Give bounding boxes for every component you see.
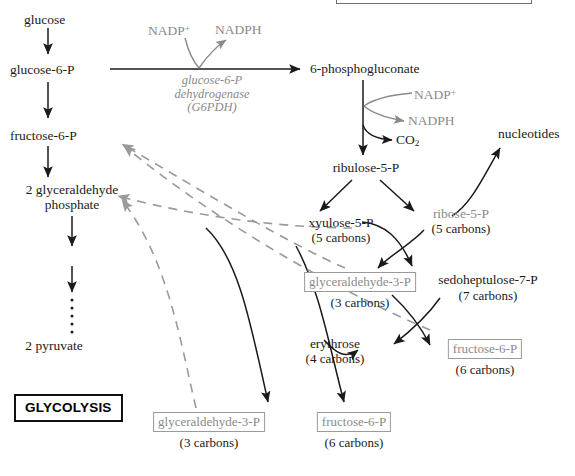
g6pdh-cofactor-curves — [185, 38, 226, 68]
node-nucleotides: nucleotides — [498, 126, 559, 141]
transaldolase-crossover-lower — [392, 295, 440, 345]
node-xyulose-5-p: xyulose-5-P — [308, 215, 373, 230]
glycolysis-badge-label: GLYCOLYSIS — [25, 400, 112, 415]
node-erythrose: erythrose — [310, 336, 360, 351]
cofactor-nadph-1: NADPH — [215, 22, 262, 37]
product-co2: CO2 — [396, 132, 419, 151]
enzyme-line3: (G6PDH) — [174, 101, 249, 115]
cofactor-nadp-charge-1: + — [185, 24, 190, 34]
node-glucose: glucose — [24, 12, 65, 27]
node-ribulose-5-p: ribulose-5-P — [333, 160, 400, 175]
node-glyceraldehyde-phosphate-line2: phosphate — [45, 197, 100, 212]
second-cofactor-curves — [364, 93, 412, 121]
node-fructose-6-p-bottom: fructose-6-P — [317, 412, 391, 432]
enzyme-line1: glucose-6-P — [174, 74, 249, 88]
carbons-sedoheptulose-7-p: (7 carbons) — [459, 289, 518, 303]
node-fructose-6-p-right: fructose-6-P — [448, 339, 522, 359]
cofactor-nadp-plus-1: NADP+ — [148, 22, 190, 38]
node-glucose-6-p: glucose-6-P — [10, 62, 75, 77]
carbons-glyceraldehyde-3-p-bottom: (3 carbons) — [180, 436, 239, 450]
enzyme-g6pdh: glucose-6-P dehydrogenase (G6PDH) — [174, 74, 249, 115]
glycolysis-dotted-continuation — [71, 299, 74, 334]
node-pyruvate: 2 pyruvate — [25, 338, 82, 353]
enzyme-line2: dehydrogenase — [174, 88, 249, 102]
co2-release-curve — [363, 125, 392, 140]
carbons-glyceraldehyde-3-p-mid: (3 carbons) — [331, 296, 390, 310]
node-glyceraldehyde-3-p-mid: glyceraldehyde-3-P — [304, 272, 416, 292]
carbons-erythrose: (4 carbons) — [306, 352, 365, 366]
carbons-xyulose-5-p: (5 carbons) — [312, 231, 371, 245]
cofactor-nadp-charge-2: + — [451, 88, 456, 98]
ribulose-split-arrows — [320, 180, 414, 211]
carbons-fructose-6-p-bottom: (6 carbons) — [325, 436, 384, 450]
node-glyceraldehyde-3-p-bottom: glyceraldehyde-3-P — [153, 412, 265, 432]
cofactor-nadp-label-1: NADP — [148, 23, 185, 38]
node-ribose-5-p: ribose-5-P — [433, 206, 489, 221]
node-glyceraldehyde-phosphate-line1: 2 glyceraldehyde — [26, 182, 119, 197]
pentose-phosphate-pathway-diagram: glucose glucose-6-P fructose-6-P 2 glyce… — [0, 0, 575, 476]
node-sedoheptulose-7-p: sedoheptulose-7-P — [438, 272, 538, 287]
carbons-ribose-5-p: (5 carbons) — [432, 222, 491, 236]
co2-subscript: 2 — [415, 138, 420, 148]
carbons-fructose-6-p-right: (6 carbons) — [456, 363, 515, 377]
glycolysis-badge: GLYCOLYSIS — [14, 394, 123, 422]
node-fructose-6-p: fructose-6-P — [10, 128, 77, 143]
co2-label: CO — [396, 132, 415, 147]
node-6-phosphogluconate: 6-phosphogluconate — [310, 61, 419, 76]
cofactor-nadp-label-2: NADP — [414, 87, 451, 102]
cofactor-nadph-2: NADPH — [408, 113, 455, 128]
cofactor-nadp-plus-2: NADP+ — [414, 86, 456, 102]
